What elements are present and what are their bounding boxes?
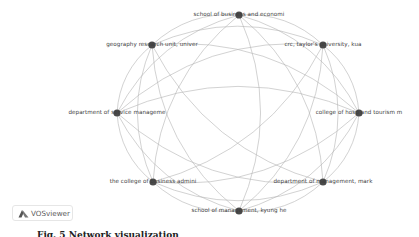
network-edge (117, 113, 323, 183)
vosviewer-logo: VOSviewer (12, 205, 73, 221)
network-edge (117, 45, 152, 113)
node-label[interactable]: college of hosp and tourism m (316, 110, 403, 116)
network-edge (153, 113, 359, 183)
network-edge (153, 45, 323, 182)
network-edge (117, 44, 323, 113)
network-edge (153, 182, 323, 201)
node-label[interactable]: department of management, mark (274, 179, 373, 185)
network-edge (117, 113, 239, 211)
network-visualization (0, 0, 419, 237)
node-label[interactable]: school of management, kyung he (191, 208, 286, 214)
network-edge (117, 15, 239, 113)
vosviewer-logo-icon (18, 209, 29, 218)
network-edge (239, 113, 359, 211)
network-edge (153, 15, 239, 182)
node-label[interactable]: the college of business admini (110, 179, 197, 185)
node-label[interactable]: geography research unit, univer (106, 42, 198, 48)
network-edge (239, 15, 261, 211)
node-label[interactable]: crc, taylor's university, kua (284, 42, 361, 48)
network-edge (152, 45, 323, 182)
network-edge (239, 45, 323, 211)
network-edge (152, 45, 239, 211)
network-edge (152, 44, 359, 113)
node-label[interactable]: school of business and economi (194, 12, 285, 18)
vosviewer-logo-text: VOSviewer (31, 209, 70, 218)
node-label[interactable]: department of service manageme (68, 110, 165, 116)
figure-caption: Fig. 5 Network visualization (37, 231, 179, 237)
